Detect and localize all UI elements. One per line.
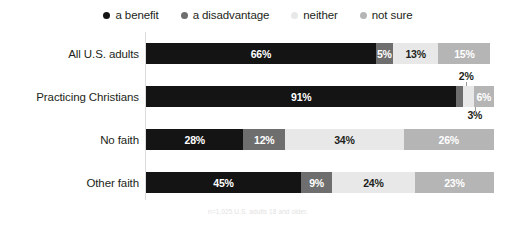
- category-label: Practicing Christians: [36, 75, 139, 118]
- segment-value-label: 45%: [213, 177, 233, 189]
- segment-value-label: 5%: [377, 48, 392, 60]
- stacked-bar: 28%12%34%26%: [146, 129, 494, 150]
- legend-item-a-benefit[interactable]: a benefit: [103, 9, 158, 21]
- bar-segment-a-benefit[interactable]: 28%: [146, 129, 243, 150]
- segment-value-label: 13%: [405, 48, 425, 60]
- bar-segment-a-disadvantage[interactable]: 5%: [376, 43, 393, 64]
- legend-dot-icon: [291, 12, 298, 19]
- bar-segment-a-disadvantage[interactable]: 9%: [301, 172, 332, 193]
- bar-segment-not-sure[interactable]: 15%: [438, 43, 490, 64]
- bar-segment-neither[interactable]: 24%: [332, 172, 415, 193]
- chart-row: No faith28%12%34%26%: [0, 118, 516, 161]
- bar-segment-neither[interactable]: 34%: [285, 129, 403, 150]
- category-label: Other faith: [86, 161, 139, 204]
- bar-segment-not-sure[interactable]: 23%: [415, 172, 494, 193]
- legend-dot-icon: [103, 12, 110, 19]
- legend-dot-icon: [360, 12, 367, 19]
- bar-segment-a-disadvantage[interactable]: 12%: [243, 129, 285, 150]
- bar-segment-a-benefit[interactable]: 45%: [146, 172, 301, 193]
- segment-value-label: 15%: [454, 48, 474, 60]
- segment-callout-label: 2%: [459, 70, 474, 82]
- segment-value-label: 12%: [254, 134, 274, 146]
- segment-value-label: 6%: [476, 91, 491, 103]
- segment-value-label: 26%: [439, 134, 459, 146]
- segment-value-label: 24%: [363, 177, 383, 189]
- chart-row: All U.S. adults66%5%13%15%: [0, 32, 516, 75]
- bar-segment-not-sure[interactable]: 6%: [474, 86, 494, 107]
- legend-item-label: neither: [303, 9, 337, 21]
- chart-plot-area: All U.S. adults66%5%13%15%Practicing Chr…: [0, 30, 516, 202]
- legend-item-a-disadvantage[interactable]: a disadvantage: [181, 9, 270, 21]
- stacked-bar: 66%5%13%15%: [146, 43, 494, 64]
- bar-segment-a-disadvantage[interactable]: 2%: [456, 86, 463, 107]
- segment-value-label: 66%: [251, 48, 271, 60]
- segment-value-label: 9%: [309, 177, 324, 189]
- chart-footnote: n=1,025 U.S. adults 18 and older.: [0, 208, 516, 215]
- chart-row: Other faith45%9%24%23%: [0, 161, 516, 204]
- legend-item-label: a disadvantage: [193, 9, 270, 21]
- bar-segment-not-sure[interactable]: 26%: [404, 129, 494, 150]
- legend-item-label: a benefit: [115, 9, 158, 21]
- stacked-bar: 91%2%2%3%3%6%: [146, 86, 494, 107]
- legend-item-not-sure[interactable]: not sure: [360, 9, 413, 21]
- legend-item-neither[interactable]: neither: [291, 9, 337, 21]
- segment-value-label: 28%: [185, 134, 205, 146]
- category-label: No faith: [100, 118, 139, 161]
- bar-segment-a-benefit[interactable]: 91%: [146, 86, 456, 107]
- segment-value-label: 34%: [334, 134, 354, 146]
- legend-dot-icon: [181, 12, 188, 19]
- segment-value-label: 91%: [291, 91, 311, 103]
- bar-segment-neither[interactable]: 3%: [463, 86, 473, 107]
- chart-legend: a benefita disadvantageneithernot sure: [0, 9, 516, 21]
- stacked-bar: 45%9%24%23%: [146, 172, 494, 193]
- category-label: All U.S. adults: [68, 32, 139, 75]
- chart-row: Practicing Christians91%2%2%3%3%6%: [0, 75, 516, 118]
- bar-segment-neither[interactable]: 13%: [393, 43, 438, 64]
- bar-segment-a-benefit[interactable]: 66%: [146, 43, 376, 64]
- segment-value-label: 23%: [444, 177, 464, 189]
- legend-item-label: not sure: [372, 9, 413, 21]
